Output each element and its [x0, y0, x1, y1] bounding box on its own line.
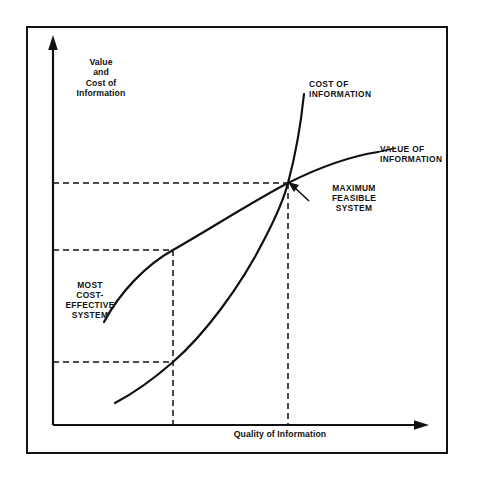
maximum-feasible-system-label: MAXIMUM FEASIBLE SYSTEM	[311, 184, 397, 214]
y-axis-label: Value and Cost of Information	[62, 57, 140, 98]
value-of-information-curve	[104, 152, 378, 322]
y-axis	[48, 35, 58, 425]
max-feasible-arrow	[288, 182, 309, 201]
most-cost-effective-system-label: MOST COST- EFFECTIVE SYSTEM	[58, 281, 122, 321]
cost-of-information-curve	[115, 94, 304, 403]
value-of-information-label: VALUE OF INFORMATION	[380, 145, 472, 165]
cost-of-information-label: COST OF INFORMATION	[309, 80, 405, 100]
figure-canvas: Value and Cost of Information Quality of…	[0, 0, 477, 479]
x-axis-label: Quality of Information	[200, 429, 360, 439]
